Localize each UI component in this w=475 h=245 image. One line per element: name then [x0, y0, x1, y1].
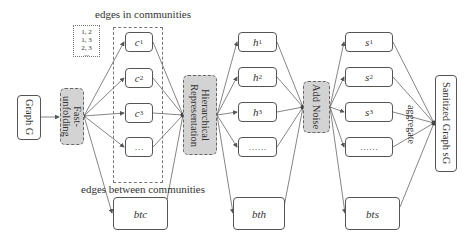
- edge-item: ...: [74, 52, 99, 57]
- h-node-more: ……: [238, 137, 277, 157]
- hierarchical-representation-node: HierarchicalRepresentation: [183, 75, 217, 155]
- graph-g-node: Graph G: [17, 95, 41, 140]
- fast-unfolding-label: Fast-unfolding: [61, 92, 83, 142]
- s-node-3: s3: [345, 102, 393, 122]
- edge-list-box: 1, 2 1, 3 2, 3 ...: [73, 25, 100, 57]
- aggregate-label: aggregate: [406, 105, 417, 148]
- edge-item: 1, 2: [74, 28, 99, 36]
- bth-node: bth: [233, 197, 285, 230]
- edges-between-communities-label: edges between communities: [81, 183, 205, 195]
- s-node-more: ……: [345, 137, 393, 157]
- add-noise-label: Add Noise: [311, 84, 322, 129]
- graph-g-label: Graph G: [24, 99, 35, 135]
- s-node-1: s1: [345, 32, 393, 52]
- community-node-c1: c1: [125, 32, 153, 52]
- community-node-more: …: [125, 137, 153, 157]
- add-noise-node: Add Noise: [303, 81, 330, 133]
- sanitized-graph-node: Sanitized Graph sG: [435, 75, 457, 172]
- h-node-2: h2: [238, 67, 277, 87]
- community-node-c2: c2: [125, 68, 153, 88]
- s-node-2: s2: [345, 67, 393, 87]
- bts-node: bts: [345, 197, 400, 230]
- hierarchical-representation-label: HierarchicalRepresentation: [189, 84, 211, 147]
- h-node-1: h1: [238, 32, 277, 52]
- sanitized-graph-label: Sanitized Graph sG: [441, 82, 452, 164]
- fast-unfolding-node: Fast-unfolding: [60, 88, 84, 145]
- btc-node: btc: [113, 197, 168, 230]
- edge-item: 1, 3: [74, 36, 99, 44]
- h-node-3: h3: [238, 102, 277, 122]
- community-node-c3: c3: [125, 103, 153, 123]
- edges-in-communities-label: edges in communities: [95, 8, 191, 20]
